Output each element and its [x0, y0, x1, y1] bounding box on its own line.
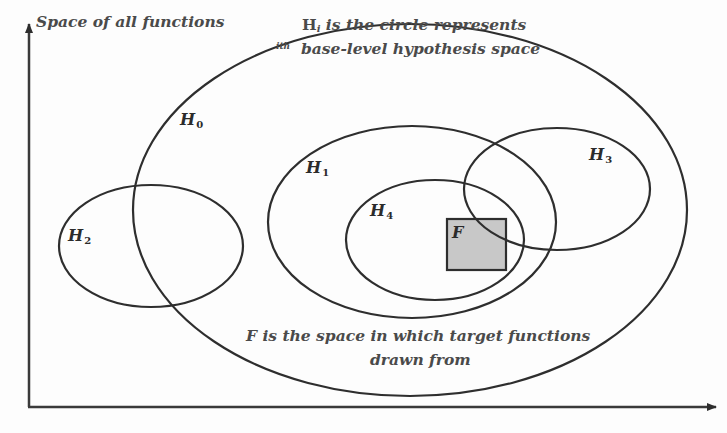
h1-label: H1 — [306, 160, 329, 178]
legend-top-text-2: base-level hypothesis space — [290, 39, 540, 58]
legend-top-text-1: is the circle represents — [320, 15, 526, 34]
legend-top-line-2: ith base-level hypothesis space — [276, 41, 540, 57]
legend-bottom-line-1: F is the space in which target functions — [246, 328, 590, 344]
legend-bottom-line-2: drawn from — [370, 352, 471, 368]
legend-ith-superscript: ith — [276, 41, 290, 51]
hypothesis-space-diagram — [0, 0, 727, 433]
h3-ellipse — [464, 128, 650, 250]
h1-ellipse — [268, 126, 556, 318]
h2-label: H2 — [68, 228, 91, 246]
legend-h-letter: H — [302, 15, 317, 34]
y-axis-label: Space of all functions — [36, 14, 224, 30]
h3-label: H3 — [589, 147, 612, 165]
h0-label: H0 — [180, 112, 203, 130]
h2-ellipse — [59, 185, 243, 307]
target-region-label: F — [452, 225, 463, 241]
h4-label: H4 — [370, 203, 393, 221]
legend-top-line-1: Hi is the circle represents — [302, 17, 526, 34]
